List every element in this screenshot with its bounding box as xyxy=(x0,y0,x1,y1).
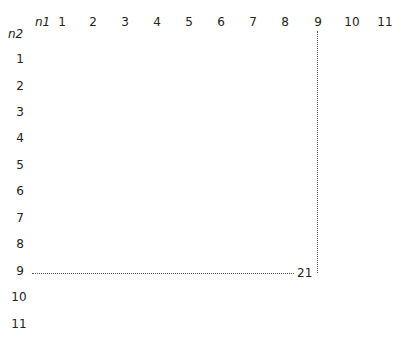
highlighted-cell-value: 21 xyxy=(297,266,312,280)
row-header-11: 11 xyxy=(11,317,26,331)
column-header-6: 6 xyxy=(217,15,225,29)
column-axis-label: n1 xyxy=(35,15,50,29)
column-header-3: 3 xyxy=(121,15,129,29)
row-header-2: 2 xyxy=(16,79,24,93)
row-header-5: 5 xyxy=(16,158,24,172)
column-header-2: 2 xyxy=(89,15,97,29)
row-guide-line xyxy=(32,273,294,274)
column-guide-line xyxy=(317,31,318,273)
row-header-10: 10 xyxy=(11,290,26,304)
row-axis-label: n2 xyxy=(8,27,23,41)
row-header-3: 3 xyxy=(16,105,24,119)
column-header-9: 9 xyxy=(314,15,322,29)
column-header-4: 4 xyxy=(153,15,161,29)
row-header-1: 1 xyxy=(16,52,24,66)
column-header-11: 11 xyxy=(377,15,392,29)
row-header-6: 6 xyxy=(16,184,24,198)
row-header-9: 9 xyxy=(16,264,24,278)
column-header-1: 1 xyxy=(58,15,66,29)
row-header-4: 4 xyxy=(16,131,24,145)
column-header-10: 10 xyxy=(344,15,359,29)
row-header-8: 8 xyxy=(16,237,24,251)
row-header-7: 7 xyxy=(16,211,24,225)
column-header-8: 8 xyxy=(281,15,289,29)
column-header-7: 7 xyxy=(249,15,257,29)
column-header-5: 5 xyxy=(185,15,193,29)
